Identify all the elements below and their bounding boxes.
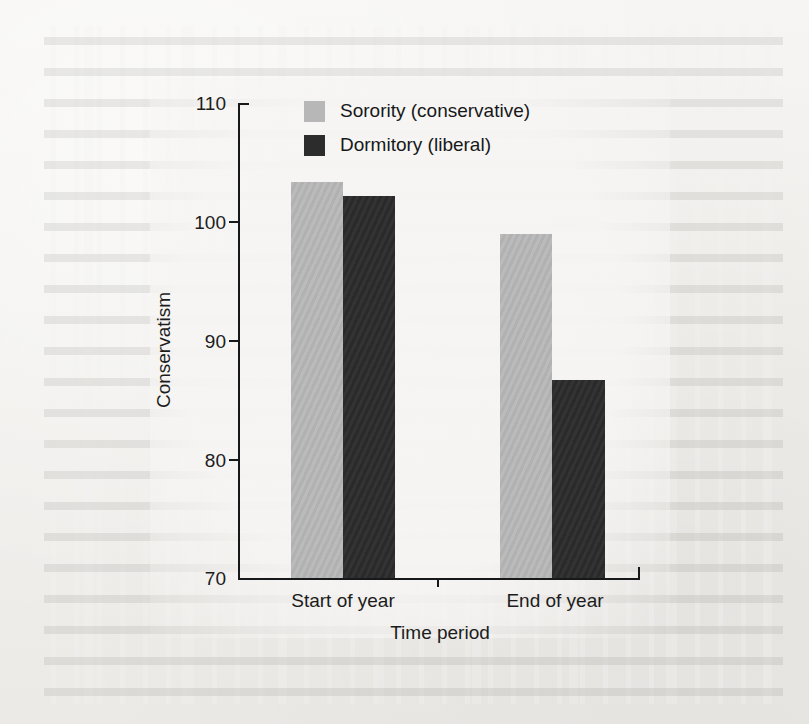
chart-legend: Sorority (conservative) Dormitory (liber… [304,96,604,164]
bar-chart-figure: Conservatism 110 100 90 80 70 Start of y… [0,0,809,724]
y-axis-spine [238,103,240,580]
y-tick-label-70: 70 [170,569,226,588]
x-tick-label-start-of-year: Start of year [253,590,433,612]
bar-end-of-year-dormitory [552,380,605,578]
legend-item-dormitory: Dormitory (liberal) [304,130,604,160]
legend-item-sorority: Sorority (conservative) [304,96,604,126]
legend-label-sorority: Sorority (conservative) [340,100,530,122]
legend-swatch-dormitory-icon [304,135,325,156]
y-tick-label-90: 90 [170,332,226,351]
y-tick-mark-100 [229,221,238,223]
y-tick-label-80: 80 [170,451,226,470]
y-tick-label-110: 110 [170,94,226,113]
bar-start-of-year-sorority [291,182,343,578]
y-tick-label-100: 100 [170,213,226,232]
legend-label-dormitory: Dormitory (liberal) [340,134,491,156]
bar-start-of-year-dormitory [343,196,395,578]
y-tick-mark-80 [229,459,238,461]
x-tick-mark-middle [437,578,439,587]
y-tick-mark-90 [229,340,238,342]
bar-end-of-year-sorority [500,234,552,578]
x-axis-right-cap [638,567,640,580]
legend-swatch-sorority-icon [304,101,325,122]
x-tick-label-end-of-year: End of year [465,590,645,612]
y-axis-top-cap [238,103,249,105]
x-axis-title: Time period [240,622,640,644]
